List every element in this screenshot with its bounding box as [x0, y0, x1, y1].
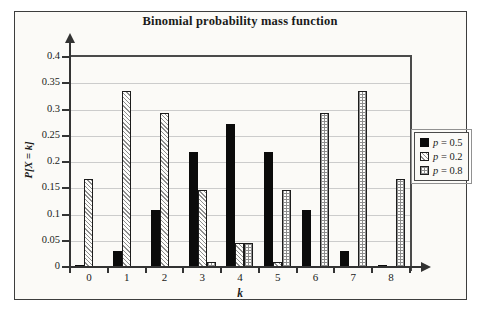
y-tick — [62, 161, 70, 163]
bar — [151, 210, 160, 267]
bar-group — [221, 57, 259, 267]
bar — [358, 91, 367, 267]
x-axis-arrow-icon — [421, 262, 431, 272]
bar-group — [259, 57, 297, 267]
y-tick-label: 0.25 — [26, 129, 60, 140]
x-tick-label: 7 — [334, 271, 372, 283]
bar — [320, 113, 329, 267]
x-tick-label: 4 — [221, 271, 259, 283]
legend-value: = 0.2 — [438, 151, 462, 162]
x-tick-label: 6 — [297, 271, 335, 283]
bar — [160, 113, 169, 267]
x-tick-label: 0 — [70, 271, 108, 283]
bar-group — [334, 57, 372, 267]
legend: p = 0.5p = 0.2p = 0.8 — [414, 132, 469, 181]
bar — [340, 251, 349, 267]
y-tick-label: 0.3 — [26, 103, 60, 114]
y-tick-label: 0.35 — [26, 76, 60, 87]
legend-value: = 0.5 — [438, 137, 462, 148]
bar — [198, 190, 207, 267]
y-axis-line — [69, 42, 71, 267]
y-tick — [62, 214, 70, 216]
bar — [113, 251, 122, 267]
y-tick-label: 0 — [26, 260, 60, 271]
bar — [396, 179, 405, 267]
legend-label: p = 0.8 — [433, 165, 463, 176]
y-tick-label: 0.15 — [26, 181, 60, 192]
y-tick — [62, 109, 70, 111]
legend-swatch-crosshatch — [420, 166, 429, 175]
x-tick-label: 3 — [183, 271, 221, 283]
y-axis-arrow-icon — [65, 33, 75, 43]
y-tick-label: 0.05 — [26, 234, 60, 245]
x-tick-label: 5 — [259, 271, 297, 283]
bar — [282, 190, 291, 267]
legend-item: p = 0.5 — [420, 137, 463, 148]
x-tick-label: 1 — [108, 271, 146, 283]
legend-label: p = 0.5 — [433, 137, 463, 148]
bar — [84, 179, 93, 267]
y-tick — [62, 187, 70, 189]
bar-group — [183, 57, 221, 267]
figure-scan: Binomial probability mass function P[X =… — [0, 0, 482, 319]
bar — [264, 152, 273, 267]
y-tick — [62, 240, 70, 242]
legend-swatch-diagonal-hatch — [420, 152, 429, 161]
y-tick — [62, 135, 70, 137]
bar — [235, 243, 244, 267]
y-tick — [62, 82, 70, 84]
bar — [122, 91, 131, 267]
chart-title: Binomial probability mass function — [70, 14, 410, 29]
x-tick-label: 8 — [372, 271, 410, 283]
plot-frame-top — [70, 55, 412, 57]
plot-frame-right — [410, 55, 412, 271]
bar — [244, 243, 253, 267]
y-tick-label: 0.4 — [26, 50, 60, 61]
legend-label: p = 0.2 — [433, 151, 463, 162]
y-tick — [62, 56, 70, 58]
bar — [189, 152, 198, 267]
bar-group — [146, 57, 184, 267]
legend-item: p = 0.8 — [420, 165, 463, 176]
x-tick-label: 2 — [146, 271, 184, 283]
legend-swatch-solid-black — [420, 138, 429, 147]
y-tick-label: 0.1 — [26, 208, 60, 219]
y-tick-label: 0.2 — [26, 155, 60, 166]
x-axis-title: k — [70, 287, 410, 299]
bar-group — [372, 57, 410, 267]
legend-value: = 0.8 — [438, 165, 462, 176]
legend-item: p = 0.2 — [420, 151, 463, 162]
bar — [226, 124, 235, 267]
bar — [302, 210, 311, 267]
x-axis-line — [66, 266, 422, 268]
bar-group — [70, 57, 108, 267]
bar-group — [297, 57, 335, 267]
bar-group — [108, 57, 146, 267]
